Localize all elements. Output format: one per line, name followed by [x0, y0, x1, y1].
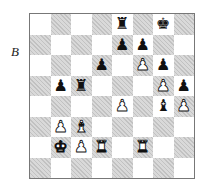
square-g2[interactable] [153, 137, 174, 158]
square-a2[interactable] [30, 137, 51, 158]
black-rook-icon[interactable]: ♜ [74, 78, 88, 94]
square-b4[interactable] [51, 96, 72, 117]
white-rook-icon[interactable]: ♜ [136, 139, 150, 155]
square-a3[interactable] [30, 117, 51, 138]
square-h1[interactable] [174, 158, 195, 179]
square-a6[interactable] [30, 55, 51, 76]
white-king-icon[interactable]: ♚ [54, 139, 68, 155]
square-a5[interactable] [30, 76, 51, 97]
square-d3[interactable] [92, 117, 113, 138]
square-c4[interactable] [71, 96, 92, 117]
square-f6[interactable]: ♟ [133, 55, 154, 76]
square-g3[interactable] [153, 117, 174, 138]
square-a4[interactable] [30, 96, 51, 117]
black-pawn-icon[interactable]: ♟ [156, 57, 170, 73]
square-e3[interactable] [112, 117, 133, 138]
square-h5[interactable]: ♟ [174, 76, 195, 97]
black-rook-icon[interactable]: ♜ [115, 16, 129, 32]
square-a8[interactable] [30, 14, 51, 35]
square-b5[interactable]: ♟ [51, 76, 72, 97]
square-e5[interactable] [112, 76, 133, 97]
square-c6[interactable] [71, 55, 92, 76]
square-c5[interactable]: ♜ [71, 76, 92, 97]
square-g7[interactable] [153, 35, 174, 56]
white-pawn-icon[interactable]: ♟ [115, 98, 129, 114]
square-b2[interactable]: ♚ [51, 137, 72, 158]
diagram-label: B [11, 44, 19, 60]
white-pawn-icon[interactable]: ♟ [177, 98, 191, 114]
square-c7[interactable] [71, 35, 92, 56]
square-d6[interactable]: ♟ [92, 55, 113, 76]
square-e4[interactable]: ♟ [112, 96, 133, 117]
square-f5[interactable] [133, 76, 154, 97]
square-b1[interactable] [51, 158, 72, 179]
white-pawn-icon[interactable]: ♟ [156, 78, 170, 94]
square-d7[interactable] [92, 35, 113, 56]
square-d5[interactable] [92, 76, 113, 97]
square-g5[interactable]: ♟ [153, 76, 174, 97]
square-b8[interactable] [51, 14, 72, 35]
square-h8[interactable] [174, 14, 195, 35]
square-b7[interactable] [51, 35, 72, 56]
chess-board: ♜♚♟♟♟♟♟♟♜♟♟♟♝♟♟♝♚♟♜♜ [29, 13, 195, 179]
square-g6[interactable]: ♟ [153, 55, 174, 76]
square-b3[interactable]: ♟ [51, 117, 72, 138]
square-c1[interactable] [71, 158, 92, 179]
square-d8[interactable] [92, 14, 113, 35]
square-f1[interactable] [133, 158, 154, 179]
white-pawn-icon[interactable]: ♟ [136, 57, 150, 73]
square-d2[interactable]: ♜ [92, 137, 113, 158]
black-pawn-icon[interactable]: ♟ [177, 78, 191, 94]
square-e8[interactable]: ♜ [112, 14, 133, 35]
square-e7[interactable]: ♟ [112, 35, 133, 56]
white-bishop-icon[interactable]: ♝ [74, 119, 88, 135]
square-e1[interactable] [112, 158, 133, 179]
white-pawn-icon[interactable]: ♟ [54, 119, 68, 135]
square-a1[interactable] [30, 158, 51, 179]
black-pawn-icon[interactable]: ♟ [54, 78, 68, 94]
black-pawn-icon[interactable]: ♟ [136, 37, 150, 53]
white-pawn-icon[interactable]: ♟ [74, 139, 88, 155]
square-h2[interactable] [174, 137, 195, 158]
square-h4[interactable]: ♟ [174, 96, 195, 117]
square-c2[interactable]: ♟ [71, 137, 92, 158]
square-e6[interactable] [112, 55, 133, 76]
square-c8[interactable] [71, 14, 92, 35]
square-f3[interactable] [133, 117, 154, 138]
square-c3[interactable]: ♝ [71, 117, 92, 138]
square-h6[interactable] [174, 55, 195, 76]
square-d1[interactable] [92, 158, 113, 179]
square-d4[interactable] [92, 96, 113, 117]
black-king-icon[interactable]: ♚ [156, 16, 170, 32]
square-e2[interactable] [112, 137, 133, 158]
square-g8[interactable]: ♚ [153, 14, 174, 35]
black-pawn-icon[interactable]: ♟ [95, 57, 109, 73]
square-f8[interactable] [133, 14, 154, 35]
black-pawn-icon[interactable]: ♟ [115, 37, 129, 53]
square-b6[interactable] [51, 55, 72, 76]
square-a7[interactable] [30, 35, 51, 56]
square-f4[interactable] [133, 96, 154, 117]
square-f7[interactable]: ♟ [133, 35, 154, 56]
square-g4[interactable]: ♝ [153, 96, 174, 117]
white-rook-icon[interactable]: ♜ [95, 139, 109, 155]
square-h7[interactable] [174, 35, 195, 56]
black-bishop-icon[interactable]: ♝ [156, 98, 170, 114]
square-h3[interactable] [174, 117, 195, 138]
square-g1[interactable] [153, 158, 174, 179]
square-f2[interactable]: ♜ [133, 137, 154, 158]
